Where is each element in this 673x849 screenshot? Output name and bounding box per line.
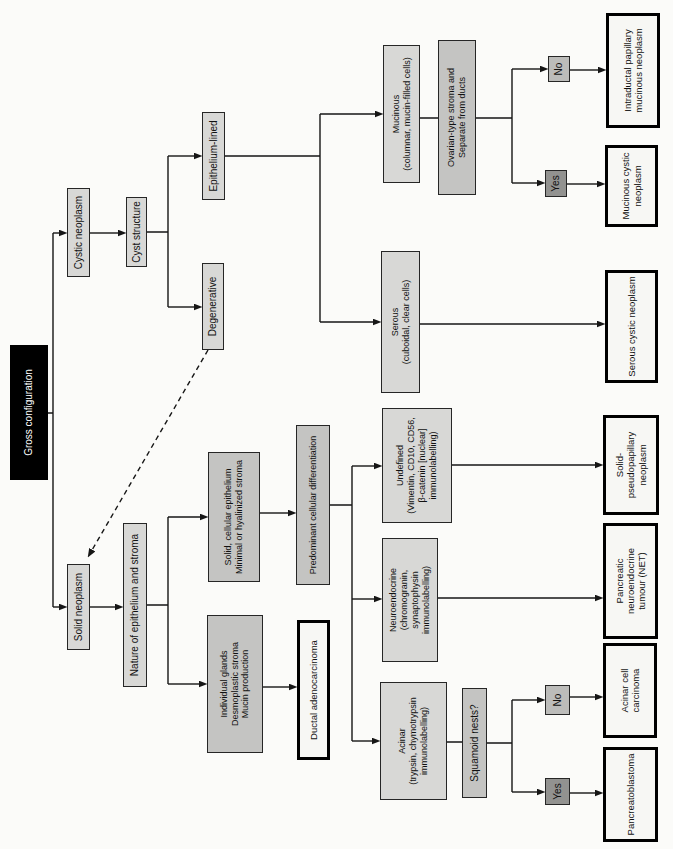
node-intraductal-papillary-mucinous-neoplasm: Intraductal papillary mucinous neoplasm [606, 13, 660, 128]
node-predominant-cellular-differentiation: Predominant cellular differentiation [296, 425, 330, 585]
node-acinar-cell-carcinoma: Acinar cell carcinoma [603, 643, 657, 738]
node-solid-pseudopapillary-neoplasm: Solid-pseudopapillary neoplasm [603, 415, 659, 515]
node-nature-of-epithelium-and-stroma: Nature of epithelium and stroma [123, 523, 147, 687]
node-acinar: Acinar (trypsin, chymotrypsin immunolabe… [380, 682, 447, 800]
node-ovarian-type-stroma: Ovarian-type stroma and Separate from du… [438, 40, 476, 195]
node-individual-glands: Individual glands Desmoplastic stroma Mu… [207, 615, 263, 753]
dashed-arrow-degenerative-solid [92, 350, 209, 551]
node-neuroendocrine: Neuroendocrine (chromogranin, synaptophy… [382, 538, 438, 662]
node-gross-configuration: Gross configuration [10, 345, 48, 480]
node-yes-ovarian: Yes [545, 170, 567, 197]
node-cystic-neoplasm: Cystic neoplasm [67, 188, 90, 277]
node-no-squamoid: No [545, 685, 570, 715]
connector-lines [0, 0, 673, 849]
node-epithelium-lined: Epithelium-lined [202, 112, 225, 200]
node-no-ovarian: No [548, 56, 570, 82]
node-cyst-structure: Cyst structure [126, 197, 147, 267]
page: Gross configuration Solid neoplasm Cysti… [0, 0, 673, 849]
node-pancreatoblastoma: Pancreatoblastoma [603, 747, 658, 842]
node-solid-cellular-epithelium: Solid, cellular epithelium Minimal or hy… [208, 452, 260, 582]
node-ductal-adenocarcinoma: Ductal adenocarcinoma [297, 620, 330, 760]
node-degenerative: Degenerative [202, 263, 224, 350]
flowchart: Gross configuration Solid neoplasm Cysti… [0, 0, 673, 849]
node-serous: Serous (cuboidal, clear cells) [381, 251, 420, 393]
node-mucinous: Mucinous (columnar, mucin-filled cells) [383, 45, 420, 183]
node-solid-neoplasm: Solid neoplasm [67, 564, 90, 650]
node-serous-cystic-neoplasm: Serous cystic neoplasm [605, 270, 658, 383]
node-mucinous-cystic-neoplasm: Mucinous cystic neoplasm [605, 145, 658, 227]
node-undefined: Undefined (Vimentin, CD10, CD56, β-caten… [382, 408, 452, 523]
node-squamoid-nests: Squamoid nests? [462, 688, 487, 798]
node-pancreatic-neuroendocrine-tumour: Pancreatic neuroendocrine tumour (NET) [603, 523, 658, 639]
node-yes-squamoid: Yes [545, 778, 570, 805]
